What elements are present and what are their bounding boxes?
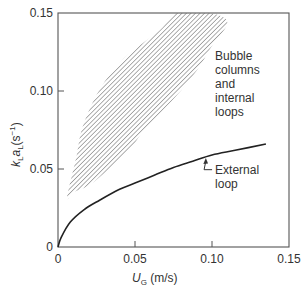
bubble-columns-region	[67, 11, 227, 199]
region-layer	[67, 11, 227, 199]
bubble-columns-label: Bubblecolumnsandinternalloops	[215, 49, 260, 119]
x-tick-label: 0.05	[123, 252, 147, 266]
x-axis-title-unit: (m/s)	[147, 271, 178, 285]
y-tick-label: 0.15	[30, 6, 54, 20]
y-tick-label: 0.05	[30, 162, 54, 176]
y-tick-label: 0	[46, 240, 53, 254]
x-axis-title: UG (m/s)	[132, 271, 178, 287]
annotation-line: internal	[215, 91, 254, 105]
x-tick-label: 0.15	[277, 252, 301, 266]
annotation-line: and	[215, 77, 235, 91]
x-tick-label: 0.10	[200, 252, 224, 266]
x-axis-title-main: U	[132, 271, 141, 285]
annotation-layer: BubblecolumnsandinternalloopsExternalloo…	[203, 49, 259, 191]
annotation-line: External	[215, 163, 259, 177]
y-axis-title: kLaL(s−1)	[8, 122, 25, 167]
y-axis-title-close: )	[9, 122, 23, 126]
annotation-line: loop	[215, 177, 238, 191]
y-tick-label: 0.10	[30, 84, 54, 98]
external-loop-label: Externalloop	[215, 163, 259, 191]
arrow-head-icon	[203, 158, 208, 164]
y-axis-title-unit: (s	[9, 135, 23, 145]
annotation-line: Bubble	[215, 49, 253, 63]
chart: 00.050.100.1500.050.100.15 Bubblecolumns…	[0, 0, 308, 290]
annotation-line: columns	[215, 63, 260, 77]
x-tick-label: 0	[55, 252, 62, 266]
annotation-line: loops	[215, 105, 244, 119]
